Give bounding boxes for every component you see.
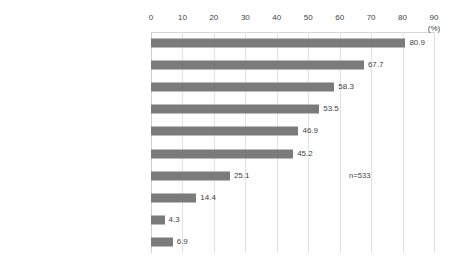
bar-value-label: 53.5 bbox=[323, 104, 339, 114]
bar bbox=[151, 127, 298, 136]
bar bbox=[151, 171, 230, 180]
bar bbox=[151, 61, 364, 70]
x-tick-label-0: 0 bbox=[149, 13, 153, 23]
bar bbox=[151, 237, 173, 246]
x-tick-label-10: 10 bbox=[178, 13, 187, 23]
x-axis-unit-label: (%) bbox=[428, 24, 440, 34]
bar-value-label: 4.3 bbox=[169, 215, 180, 225]
bar-value-label: 25.1 bbox=[234, 171, 250, 181]
bar-chart: 0102030405060708090 (%) Top Message, Cor… bbox=[0, 0, 455, 268]
bar bbox=[151, 215, 165, 224]
bar-value-label: 58.3 bbox=[338, 82, 354, 92]
gridline-90 bbox=[434, 32, 435, 253]
bar-value-label: 67.7 bbox=[368, 60, 384, 70]
x-tick-label-90: 90 bbox=[430, 13, 439, 23]
bar bbox=[151, 149, 293, 158]
x-tick-label-40: 40 bbox=[272, 13, 281, 23]
bar-value-label: 45.2 bbox=[297, 149, 313, 159]
x-tick-label-70: 70 bbox=[367, 13, 376, 23]
x-tick-label-80: 80 bbox=[398, 13, 407, 23]
x-tick-label-20: 20 bbox=[209, 13, 218, 23]
bar bbox=[151, 193, 196, 202]
bar-value-label: 80.9 bbox=[409, 38, 425, 48]
x-tick-label-50: 50 bbox=[304, 13, 313, 23]
bar bbox=[151, 83, 334, 92]
bar-value-label: 14.4 bbox=[200, 193, 216, 203]
bar bbox=[151, 105, 319, 114]
x-tick-label-60: 60 bbox=[335, 13, 344, 23]
bar-value-label: 6.9 bbox=[177, 237, 188, 247]
gridline-80 bbox=[403, 32, 404, 253]
bar-value-label: 46.9 bbox=[302, 126, 318, 136]
x-tick-label-30: 30 bbox=[241, 13, 250, 23]
bar bbox=[151, 39, 405, 48]
sample-size-annotation: n=533 bbox=[349, 171, 370, 181]
